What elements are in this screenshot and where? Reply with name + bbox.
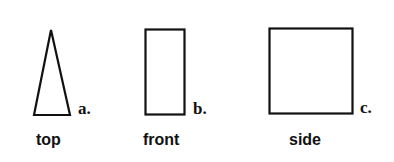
view-label-top: top [36, 132, 61, 148]
front-view-rectangle [146, 30, 185, 115]
view-label-front: front [143, 132, 179, 148]
orthographic-views-figure: a. b. c. top front side [0, 0, 394, 162]
view-letter-a: a. [78, 100, 91, 117]
view-letter-c: c. [360, 99, 372, 116]
top-view-triangle [34, 30, 70, 115]
side-view-square [270, 29, 353, 114]
view-letter-b: b. [193, 100, 207, 117]
view-label-side: side [289, 132, 321, 148]
